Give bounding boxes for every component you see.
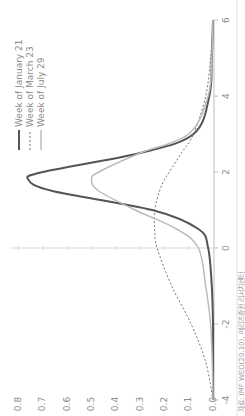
x-tick-label: 4	[221, 93, 231, 99]
y-tick-label: 0.1	[183, 397, 193, 411]
legend-label: Week of July 29	[36, 57, 46, 127]
x-tick-label: 2	[221, 169, 231, 175]
y-tick-label: 0.8	[13, 397, 23, 412]
source-text: 자료: IMF WEO(20.10), 메리츠증권 리서치센터	[237, 272, 245, 412]
series-line-january-21	[27, 20, 213, 400]
x-tick-label: -4	[221, 395, 231, 404]
y-tick-label: 0.3	[135, 397, 145, 411]
y-tick-label: 0.4	[110, 397, 120, 412]
source-note: 자료: IMF WEO(20.10), 메리츠증권 리서치센터	[237, 272, 245, 412]
series-lines	[27, 20, 213, 400]
legend-label: Week of January 21	[14, 40, 24, 128]
y-tick-label: 0.7	[37, 397, 47, 411]
x-tick-label: -2	[221, 320, 231, 329]
density-chart: -4-202460.00.10.20.30.40.50.60.70.8 Week…	[0, 0, 245, 416]
y-tick-label: 0.6	[62, 397, 72, 412]
legend: Week of January 21Week of March 23Week o…	[14, 40, 46, 151]
y-tick-label: 0.5	[86, 397, 96, 411]
legend-label: Week of March 23	[25, 46, 35, 127]
x-tick-label: 0	[221, 245, 231, 251]
y-tick-label: 0.2	[159, 397, 169, 411]
x-tick-label: 6	[221, 17, 231, 23]
series-line-march-23	[154, 20, 213, 400]
